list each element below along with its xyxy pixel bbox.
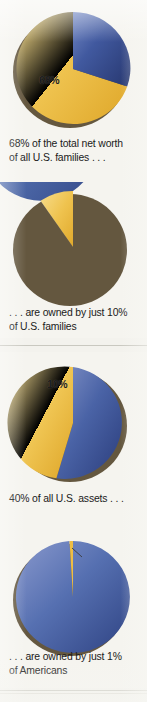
pie-svg-assets xyxy=(0,358,147,490)
caption-net-worth: 68% of the total net worth of all U.S. f… xyxy=(9,137,143,164)
pie-chart-americans: 1% xyxy=(0,532,147,664)
pie-graphic-families: 10% xyxy=(0,182,147,314)
pie-svg-net-worth xyxy=(0,4,147,136)
pie-label-68: 68% xyxy=(39,74,59,86)
pie-graphic-net-worth: 68% xyxy=(0,4,147,136)
pie-chart-assets: 40% xyxy=(0,358,147,490)
pie-chart-families: 10% xyxy=(0,182,147,314)
infographic-page: 68% 68% of the total net worth of all U.… xyxy=(0,0,147,702)
pie-chart-net-worth: 68% xyxy=(0,4,147,136)
pie-label-10: 10% xyxy=(47,378,67,390)
panel-divider-bottom-secondary xyxy=(0,693,147,694)
caption-americans: . . . are owned by just 1% of Americans xyxy=(9,650,143,677)
pie-svg-americans xyxy=(0,532,147,664)
caption-families: . . . are owned by just 10% of U.S. fami… xyxy=(9,306,143,333)
pie-graphic-assets: 40% xyxy=(0,358,147,490)
pie-slices xyxy=(16,541,130,653)
panel-divider-bottom xyxy=(0,690,147,691)
pie-slices xyxy=(16,12,130,124)
pie-graphic-americans: 1% xyxy=(0,532,147,664)
panel-divider-middle xyxy=(0,345,147,346)
caption-assets: 40% of all U.S. assets . . . xyxy=(9,492,143,506)
pie-svg-families xyxy=(0,182,147,314)
